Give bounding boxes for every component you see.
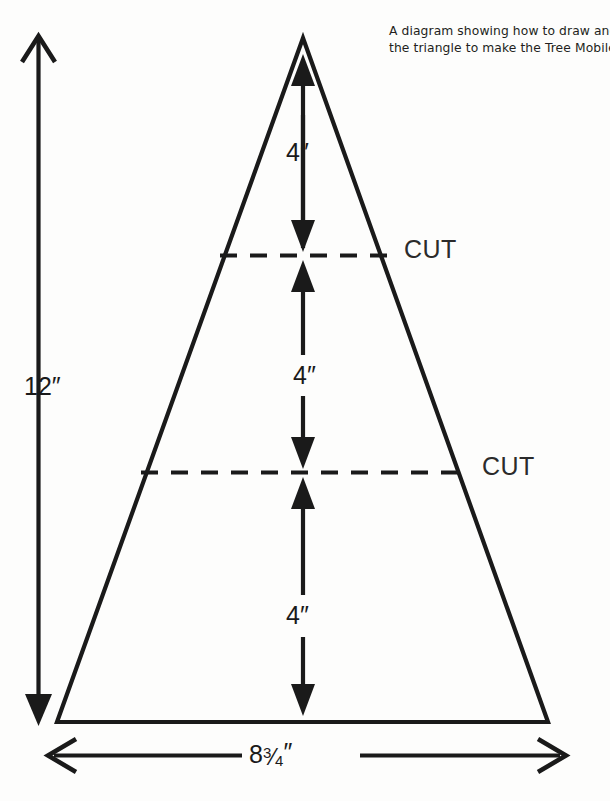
caption-line-2: the triangle to make the Tree Mobile. <box>389 40 604 57</box>
fraction-denominator: 4 <box>275 753 283 768</box>
base-whole-number: 8 <box>249 740 263 769</box>
base-inch-mark: ″ <box>283 738 292 767</box>
height-dimension-label: 12″ <box>24 372 61 401</box>
bottom-segment-label: 4″ <box>286 601 309 630</box>
base-dimension-arrow <box>48 739 566 772</box>
fraction-numerator: 3 <box>263 745 271 760</box>
base-dimension-label: 83⁄4″ <box>249 740 292 769</box>
upper-cut-label: CUT <box>404 235 457 264</box>
caption: A diagram showing how to draw and cut th… <box>389 23 604 56</box>
diagram-page: A diagram showing how to draw and cut th… <box>0 0 610 801</box>
top-segment-label: 4″ <box>286 138 309 167</box>
bottom-segment-arrow <box>291 477 315 716</box>
base-fraction: 3⁄4 <box>263 745 284 768</box>
middle-segment-label: 4″ <box>293 361 316 390</box>
lower-cut-label: CUT <box>482 452 535 481</box>
caption-line-1: A diagram showing how to draw and cut <box>389 23 604 40</box>
triangle-diagram-canvas <box>0 0 610 801</box>
